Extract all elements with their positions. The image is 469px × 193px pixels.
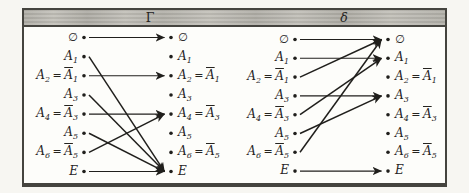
set-symbol: A — [64, 49, 73, 63]
subscript: 4 — [404, 114, 409, 123]
node-label: A4=A3 — [395, 105, 437, 124]
node-label: A1 — [0, 47, 78, 66]
set-symbol: A — [423, 107, 432, 121]
node-label: A1 — [395, 48, 409, 67]
set-symbol: A — [36, 68, 45, 82]
node-label: A3 — [395, 86, 409, 105]
set-symbol: A — [395, 88, 404, 102]
subscript: 5 — [73, 133, 78, 142]
set-symbol: A — [247, 144, 256, 158]
set-symbol: A — [247, 69, 256, 83]
set-symbol: A — [395, 126, 404, 140]
set-symbol: A — [64, 68, 73, 82]
set-symbol: A — [395, 107, 404, 121]
set-symbol: A — [423, 69, 432, 83]
node-label: ∅ — [0, 28, 78, 47]
node-label: A6=A5 — [174, 142, 289, 161]
subscript: 1 — [284, 76, 289, 85]
subscript: 1 — [73, 75, 78, 84]
equals-sign: = — [409, 70, 423, 83]
equals-sign: = — [50, 107, 64, 120]
set-symbol: A — [275, 69, 284, 83]
set-symbol: E — [69, 164, 78, 178]
node-label: A3 — [174, 86, 289, 105]
set-symbol: A — [275, 144, 284, 158]
subscript: 3 — [284, 95, 289, 104]
equals-sign: = — [50, 145, 64, 158]
node-label: E — [395, 161, 404, 180]
panel-title-gamma: Γ — [146, 10, 155, 25]
set-symbol: A — [395, 50, 404, 64]
node-label: A1 — [174, 48, 289, 67]
node-label: A5 — [395, 124, 409, 143]
empty-set-symbol: ∅ — [279, 32, 289, 46]
node-label: E — [0, 162, 78, 181]
node-label: ∅ — [395, 30, 405, 49]
set-symbol: A — [423, 144, 432, 158]
node-label: A6=A5 — [395, 142, 437, 161]
node-label: A2=A1 — [395, 67, 437, 86]
set-symbol: A — [64, 144, 73, 158]
panel-title-delta: δ — [340, 10, 348, 25]
node-label: A3 — [0, 85, 78, 104]
empty-set-symbol: ∅ — [68, 30, 78, 44]
node-label: A2=A1 — [0, 66, 78, 85]
equals-sign: = — [261, 70, 275, 83]
subscript: 5 — [404, 133, 409, 142]
node-label: A2=A1 — [174, 67, 289, 86]
subscript: 1 — [284, 58, 289, 67]
subscript: 3 — [284, 114, 289, 123]
subscript: 3 — [73, 113, 78, 122]
set-symbol: A — [64, 87, 73, 101]
set-symbol: A — [395, 69, 404, 83]
node-label: A5 — [174, 124, 289, 143]
equals-sign: = — [261, 145, 275, 158]
subscript: 1 — [404, 58, 409, 67]
set-symbol: A — [275, 88, 284, 102]
scanned-figure: Γ δ ∅∅A1A1A2=A1A2=A1A3A3A4=A3A4=A3A5A5A6… — [0, 0, 469, 193]
subscript: 5 — [73, 152, 78, 161]
equals-sign: = — [409, 145, 423, 158]
subscript: 5 — [284, 133, 289, 142]
node-label: A5 — [0, 123, 78, 142]
set-symbol: A — [275, 50, 284, 64]
subscript: 3 — [404, 95, 409, 104]
set-symbol: A — [36, 106, 45, 120]
subscript: 5 — [284, 152, 289, 161]
subscript: 3 — [73, 94, 78, 103]
subscript: 5 — [432, 152, 437, 161]
equals-sign: = — [409, 108, 423, 121]
set-symbol: A — [275, 107, 284, 121]
set-symbol: E — [395, 163, 404, 177]
set-symbol: A — [395, 144, 404, 158]
node-label: A4=A3 — [174, 105, 289, 124]
header-band: Γ δ — [24, 10, 445, 27]
set-symbol: A — [64, 125, 73, 139]
subscript: 2 — [404, 76, 409, 85]
empty-set-symbol: ∅ — [395, 32, 405, 46]
node-label: A4=A3 — [0, 104, 78, 123]
equals-sign: = — [50, 69, 64, 82]
subscript: 3 — [432, 114, 437, 123]
subscript: 6 — [404, 152, 409, 161]
set-symbol: A — [36, 144, 45, 158]
subscript: 1 — [73, 56, 78, 65]
set-symbol: E — [280, 163, 289, 177]
node-label: A6=A5 — [0, 142, 78, 161]
equals-sign: = — [261, 108, 275, 121]
node-label: E — [174, 161, 289, 180]
set-symbol: A — [64, 106, 73, 120]
set-symbol: A — [275, 126, 284, 140]
node-label: ∅ — [174, 30, 289, 49]
subscript: 1 — [432, 76, 437, 85]
set-symbol: A — [247, 107, 256, 121]
